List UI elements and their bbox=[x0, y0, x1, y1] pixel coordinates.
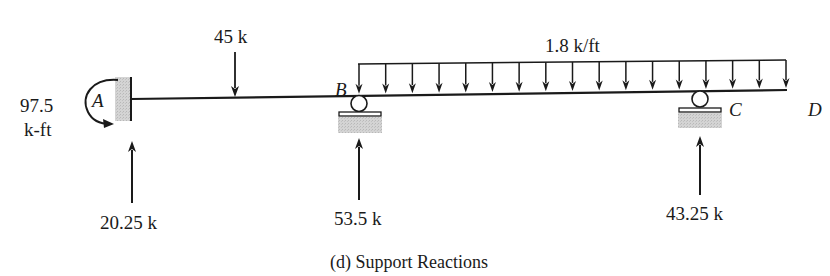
distributed-load bbox=[356, 60, 790, 94]
figure-caption: (d) Support Reactions bbox=[330, 253, 488, 271]
reaction-arrow-c bbox=[696, 136, 704, 195]
reaction-c-label: 43.25 k bbox=[666, 204, 723, 223]
moment-unit-label: k-ft bbox=[24, 120, 51, 139]
distributed-load-label: 1.8 k/ft bbox=[545, 36, 600, 55]
reaction-a-label: 20.25 k bbox=[100, 213, 157, 232]
beam-reaction-diagram: 97.5 k-ft A B C D 45 k 1.8 k/ft 20.25 k … bbox=[0, 0, 830, 276]
fixed-support-a bbox=[115, 77, 131, 121]
point-label-b: B bbox=[335, 80, 347, 99]
roller-support-b bbox=[338, 96, 382, 134]
moment-value-label: 97.5 bbox=[20, 96, 53, 115]
point-label-a: A bbox=[92, 91, 104, 110]
reaction-arrow-b bbox=[355, 138, 363, 200]
point-label-d: D bbox=[808, 100, 822, 119]
point-load-label: 45 k bbox=[214, 27, 247, 46]
diagram-canvas bbox=[0, 0, 830, 276]
beam bbox=[131, 90, 787, 99]
point-label-c: C bbox=[729, 100, 742, 119]
point-load-arrow bbox=[231, 52, 239, 97]
reaction-arrow-a bbox=[128, 141, 136, 203]
roller-support-c bbox=[678, 91, 722, 128]
reaction-b-label: 53.5 k bbox=[334, 209, 382, 228]
